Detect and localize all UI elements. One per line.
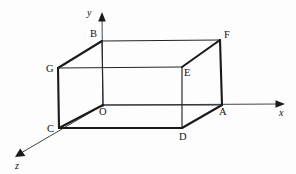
- axis-labels-group: y x z: [14, 7, 284, 171]
- edge-G-B: [58, 41, 102, 68]
- axis-label-x: x: [278, 107, 284, 118]
- vertex-label-B: B: [90, 28, 97, 39]
- axes-group: [15, 12, 285, 157]
- edge-F-A: [220, 40, 222, 105]
- z-axis-arrowhead: [15, 149, 25, 158]
- edge-E-G: [58, 67, 182, 68]
- vertex-label-C: C: [47, 123, 54, 134]
- prism-coordinate-figure: O A B C D E F G y x z: [0, 0, 296, 174]
- edge-G-C: [58, 68, 59, 128]
- y-axis-arrowhead: [98, 12, 106, 22]
- edge-D-A: [182, 105, 222, 128]
- axis-label-z: z: [14, 160, 19, 171]
- vertex-label-A: A: [219, 106, 227, 117]
- edge-F-E: [182, 40, 220, 67]
- edge-B-O: [102, 41, 103, 105]
- edge-B-F: [102, 40, 220, 41]
- vertex-labels-group: O A B C D E F G: [46, 28, 230, 142]
- vertex-label-E: E: [184, 67, 190, 78]
- edge-O-C: [59, 105, 103, 128]
- vertex-label-O: O: [99, 106, 107, 117]
- prism-edges-group: [58, 40, 222, 128]
- axis-label-y: y: [86, 7, 92, 18]
- vertex-label-F: F: [224, 29, 230, 40]
- diagram-canvas: O A B C D E F G y x z: [0, 0, 296, 174]
- vertex-label-D: D: [179, 131, 187, 142]
- vertex-label-G: G: [46, 63, 54, 74]
